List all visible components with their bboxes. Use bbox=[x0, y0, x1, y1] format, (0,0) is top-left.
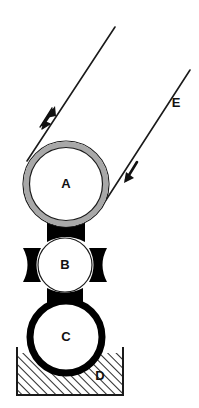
web-incoming-line bbox=[106, 70, 190, 200]
roll-a-label: A bbox=[61, 176, 71, 191]
direction-arrow-outgoing bbox=[40, 106, 56, 129]
roll-coating-diagram: C B A D E bbox=[0, 0, 199, 408]
roll-c-group: C bbox=[30, 301, 102, 373]
diagram-canvas: C B A D E bbox=[0, 0, 199, 408]
direction-arrow-incoming bbox=[124, 162, 137, 183]
roll-c-label: C bbox=[61, 329, 71, 344]
roll-b-group: B bbox=[38, 238, 92, 292]
roll-b-label: B bbox=[60, 257, 69, 272]
tank-d-label: D bbox=[95, 368, 104, 383]
roll-a-group: A bbox=[23, 141, 109, 227]
web-e-label: E bbox=[172, 95, 181, 110]
